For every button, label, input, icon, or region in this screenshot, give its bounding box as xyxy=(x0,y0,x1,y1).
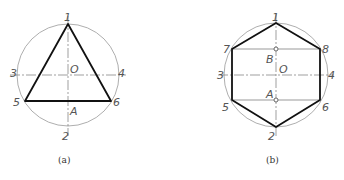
label-5: 5 xyxy=(222,101,229,114)
label-6: 6 xyxy=(322,101,329,114)
point-B xyxy=(274,47,278,51)
point-A xyxy=(274,98,278,102)
caption-a: (a) xyxy=(58,155,70,165)
label-3: 3 xyxy=(10,67,17,80)
label-2: 2 xyxy=(62,130,69,143)
label-A: A xyxy=(265,88,274,101)
label-5: 5 xyxy=(13,96,20,109)
label-7: 7 xyxy=(223,43,230,56)
figure-b: 1 2 3 4 5 6 7 8 O A B (b) xyxy=(217,11,335,165)
label-4: 4 xyxy=(328,69,335,82)
label-4: 4 xyxy=(118,67,125,80)
label-8: 8 xyxy=(322,43,329,56)
label-B: B xyxy=(266,53,274,66)
label-3: 3 xyxy=(217,69,224,82)
construction-diagram: 1 2 3 4 5 6 O A (a) 1 2 3 4 5 6 7 8 O A … xyxy=(0,0,344,180)
label-6: 6 xyxy=(113,96,120,109)
label-2: 2 xyxy=(268,130,275,143)
label-A: A xyxy=(69,105,78,118)
label-1: 1 xyxy=(64,11,71,24)
label-1: 1 xyxy=(272,11,279,24)
figure-a: 1 2 3 4 5 6 O A (a) xyxy=(10,11,126,165)
caption-b: (b) xyxy=(266,155,279,165)
label-O: O xyxy=(279,63,288,76)
label-O: O xyxy=(70,63,79,76)
